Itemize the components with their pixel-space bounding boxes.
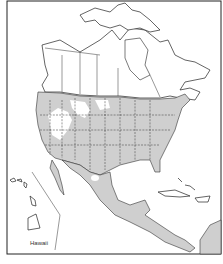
mexico-central-america-range [62, 160, 195, 252]
cuba [158, 190, 190, 197]
canada-landmass [42, 28, 210, 100]
hawaii-label: Hawaii [30, 240, 48, 246]
range-map: Hawaii [0, 0, 223, 264]
south-america [200, 220, 221, 254]
hawaii-inset-line [32, 172, 60, 250]
baja-california [50, 160, 64, 195]
hispaniola [195, 196, 210, 202]
hawaii-islands [10, 178, 40, 230]
arctic-islands [80, 3, 160, 32]
range-gap-mexico [91, 175, 99, 181]
bahamas [178, 178, 195, 190]
